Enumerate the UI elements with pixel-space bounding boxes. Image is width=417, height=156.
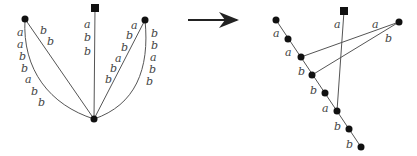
- chain-node: [309, 72, 316, 79]
- edge-right-straight: [94, 20, 145, 119]
- edge-label: b: [40, 24, 47, 37]
- bottom-node: [91, 116, 98, 123]
- edge-label: b: [105, 73, 112, 86]
- square-node: [340, 7, 348, 15]
- left-graph: a a b b a b b b b a b b a b b a b b b b …: [17, 4, 158, 123]
- edge-label: b: [346, 138, 353, 151]
- edge-label: a: [273, 27, 280, 40]
- edge-label: b: [84, 45, 91, 58]
- edge-label: b: [385, 32, 392, 45]
- edge-label: b: [298, 65, 305, 78]
- edge-label: b: [84, 31, 91, 44]
- graph-transformation-diagram: a a b b a b b b b a b b a b b a b b b b …: [0, 0, 417, 156]
- edge-label: b: [334, 120, 341, 133]
- right-graph: a a b b a b b a a b: [273, 7, 403, 151]
- edge-label: a: [285, 46, 292, 59]
- edge-label: b: [310, 84, 317, 97]
- right-node: [396, 19, 403, 26]
- edge-label: b: [47, 35, 54, 48]
- edge-label: b: [146, 75, 153, 88]
- chain-node: [298, 54, 305, 61]
- edge-label: a: [84, 18, 91, 31]
- edge-label: b: [38, 96, 45, 109]
- chain-node: [358, 144, 365, 151]
- right-node: [142, 17, 149, 24]
- square-node: [91, 4, 99, 12]
- edge-label: a: [322, 102, 329, 115]
- chain-node: [322, 90, 329, 97]
- edge-label: b: [31, 85, 38, 98]
- edge-label: a: [334, 18, 341, 31]
- chain-node: [334, 108, 341, 115]
- left-node: [22, 16, 29, 23]
- edge-center-vertical: [94, 8, 95, 119]
- chain-node: [346, 126, 353, 133]
- chain-node: [285, 36, 292, 43]
- chain-node: [273, 17, 280, 24]
- edge-label: b: [121, 41, 128, 54]
- edge-label: a: [372, 18, 379, 31]
